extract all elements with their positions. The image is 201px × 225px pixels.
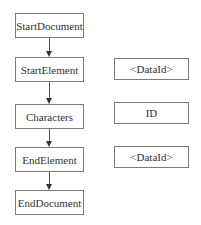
node-start-document: StartDocument — [15, 13, 84, 38]
value-end-element: <DataId> — [114, 146, 189, 168]
node-label: EndElement — [22, 154, 76, 166]
value-label: ID — [146, 107, 158, 119]
value-characters: ID — [114, 102, 189, 124]
node-characters: Characters — [15, 104, 84, 129]
arrow-line — [49, 172, 50, 184]
arrow-line — [49, 129, 50, 141]
node-end-document: EndDocument — [15, 190, 84, 215]
value-label: <DataId> — [130, 63, 172, 75]
arrow-line — [49, 38, 50, 51]
node-end-element: EndElement — [15, 147, 84, 172]
node-label: Characters — [26, 111, 73, 123]
value-label: <DataId> — [130, 151, 172, 163]
node-label: EndDocument — [18, 197, 82, 209]
node-start-element: StartElement — [15, 57, 84, 82]
node-label: StartElement — [21, 64, 78, 76]
arrow-line — [49, 82, 50, 98]
value-start-element: <DataId> — [114, 58, 189, 80]
node-label: StartDocument — [16, 20, 83, 32]
